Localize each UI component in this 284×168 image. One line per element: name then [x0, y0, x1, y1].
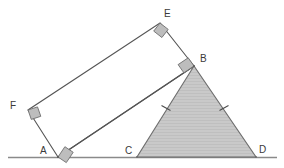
vertex-label-a: A: [40, 146, 47, 156]
vertex-label-e: E: [164, 9, 171, 19]
vertex-label-d: D: [259, 145, 266, 155]
vertex-label-b: B: [200, 54, 207, 64]
vertex-dot-a: [57, 156, 59, 158]
geometry-canvas: [0, 0, 284, 168]
vertex-label-f: F: [10, 101, 16, 111]
geometry-figure: A B C D E F: [0, 0, 284, 168]
vertex-dot-c: [136, 156, 138, 158]
vertex-label-c: C: [125, 146, 132, 156]
vertex-dot-b: [193, 65, 195, 67]
vertex-dot-d: [255, 156, 257, 158]
